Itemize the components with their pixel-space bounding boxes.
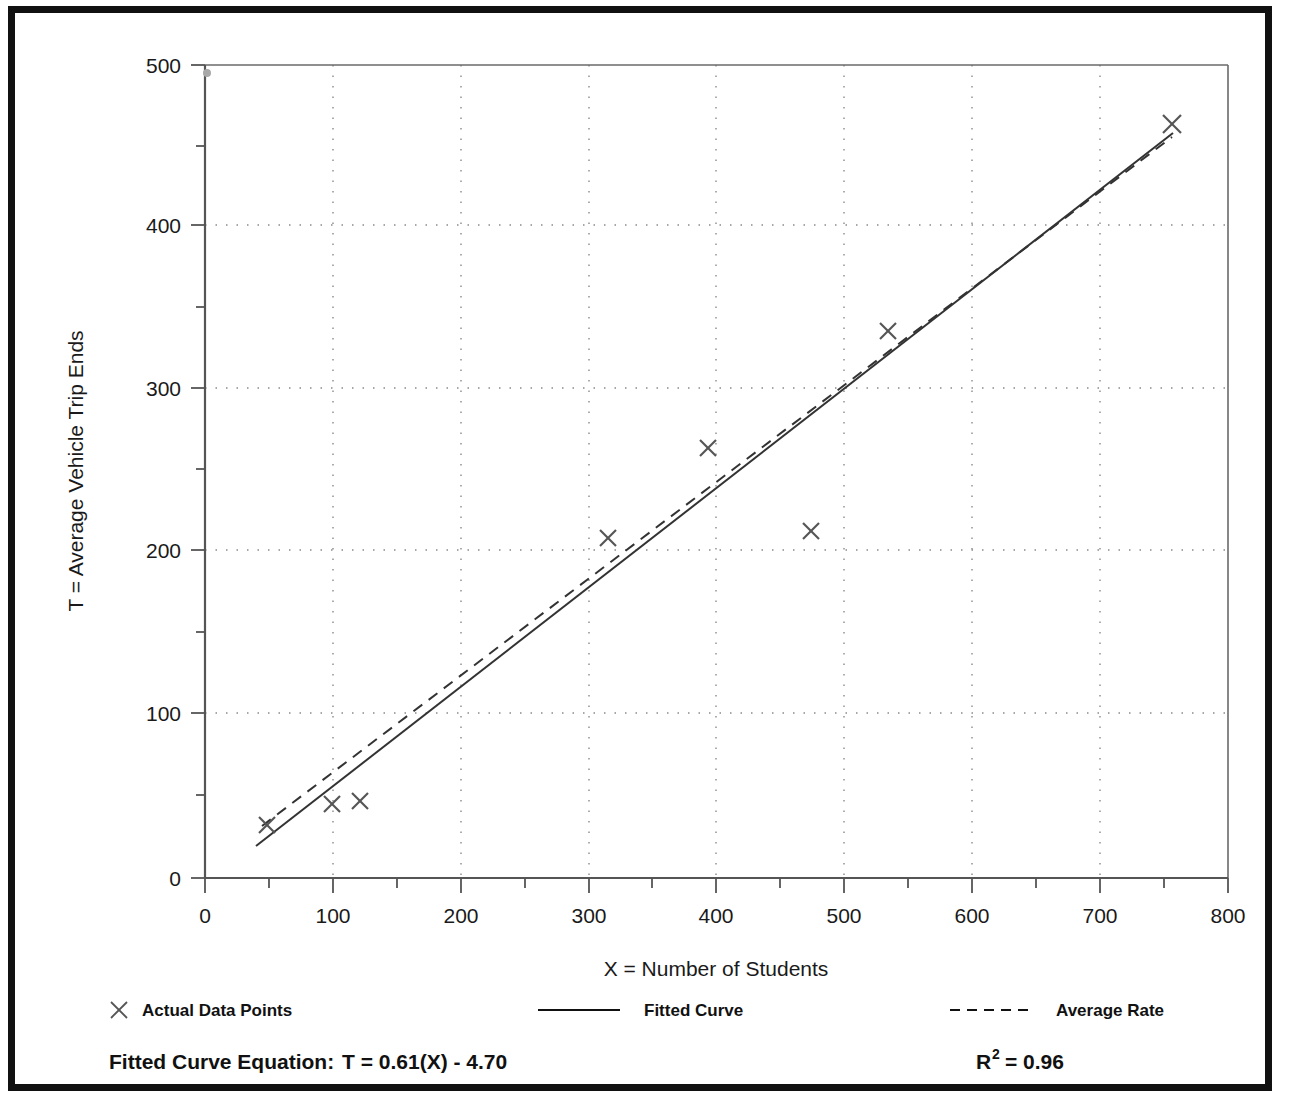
axis-origin-dot <box>203 69 211 77</box>
gridlines <box>205 65 1228 878</box>
x-tick-label: 200 <box>443 904 478 927</box>
r-squared-exponent: 2 <box>992 1046 1000 1062</box>
r-squared-value: = 0.96 <box>1005 1050 1064 1073</box>
r-squared-symbol: R <box>976 1050 991 1073</box>
x-tick-label: 500 <box>826 904 861 927</box>
legend: Actual Data Points Fitted Curve Average … <box>111 1001 1164 1020</box>
data-point-marker <box>352 793 368 809</box>
plot-border <box>205 65 1228 878</box>
axes <box>205 65 1228 878</box>
x-tick-label: 800 <box>1210 904 1245 927</box>
x-axis-ticks <box>205 878 1228 893</box>
x-tick-label: 300 <box>571 904 606 927</box>
legend-label: Fitted Curve <box>644 1001 743 1020</box>
y-tick-label: 300 <box>146 377 181 400</box>
x-tick-labels: 0 100 200 300 400 500 600 700 800 <box>199 904 1245 927</box>
x-tick-label: 100 <box>315 904 350 927</box>
y-axis-title: T = Average Vehicle Trip Ends <box>64 330 87 611</box>
data-point-marker <box>324 796 340 812</box>
y-axis-ticks <box>191 65 205 878</box>
legend-item-fitted-curve: Fitted Curve <box>538 1001 743 1020</box>
x-marker-icon <box>111 1002 127 1018</box>
y-tick-label: 100 <box>146 702 181 725</box>
x-axis-title: X = Number of Students <box>604 957 829 980</box>
y-tick-label: 0 <box>169 867 181 890</box>
data-point-marker <box>880 323 896 339</box>
equation-label-text: Fitted Curve Equation: <box>109 1050 334 1073</box>
fitted-curve-equation-value: T = 0.61(X) - 4.70 <box>342 1050 507 1073</box>
x-tick-label: 0 <box>199 904 211 927</box>
data-point-marker <box>803 523 819 539</box>
fitted-curve-line <box>256 133 1173 846</box>
legend-label: Actual Data Points <box>142 1001 292 1020</box>
fitted-curve-equation-label: Fitted Curve Equation: <box>109 1050 334 1073</box>
equation-row: Fitted Curve Equation: T = 0.61(X) - 4.7… <box>109 1046 1064 1073</box>
x-tick-label: 600 <box>954 904 989 927</box>
data-point-marker <box>1163 115 1181 133</box>
data-point-marker <box>600 530 616 546</box>
data-points <box>259 115 1181 833</box>
horizontal-gridlines <box>205 225 1228 713</box>
x-tick-label: 400 <box>698 904 733 927</box>
legend-item-actual-data-points: Actual Data Points <box>111 1001 292 1020</box>
data-point-marker <box>700 440 716 456</box>
vertical-gridlines <box>333 65 1100 878</box>
legend-item-average-rate: Average Rate <box>950 1001 1164 1020</box>
y-tick-label: 400 <box>146 214 181 237</box>
chart-canvas: 500 400 300 200 100 0 0 100 200 300 400 … <box>15 13 1265 1084</box>
legend-label: Average Rate <box>1056 1001 1164 1020</box>
data-point-marker <box>259 817 275 833</box>
y-tick-label: 500 <box>146 54 181 77</box>
x-tick-label: 700 <box>1082 904 1117 927</box>
y-tick-label: 200 <box>146 539 181 562</box>
figure-frame: 500 400 300 200 100 0 0 100 200 300 400 … <box>8 6 1272 1091</box>
y-tick-labels: 500 400 300 200 100 0 <box>146 54 181 890</box>
